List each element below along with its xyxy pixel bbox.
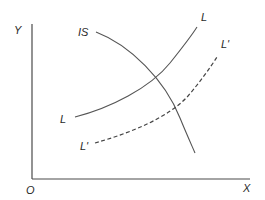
l-curve-label-end: L (201, 11, 207, 23)
l-curve-label-start: L (60, 113, 66, 125)
l-curve (75, 27, 197, 117)
l-prime-curve (95, 57, 217, 143)
x-axis-label: X (242, 182, 251, 194)
l-prime-curve-label-end: L' (221, 38, 230, 50)
origin-label: O (26, 184, 35, 196)
is-curve-label: IS (78, 26, 89, 38)
y-axis-label: Y (14, 24, 22, 36)
is-ll-diagram: Y X O IS L L L' L' (0, 0, 265, 200)
l-prime-curve-label-start: L' (80, 140, 89, 152)
